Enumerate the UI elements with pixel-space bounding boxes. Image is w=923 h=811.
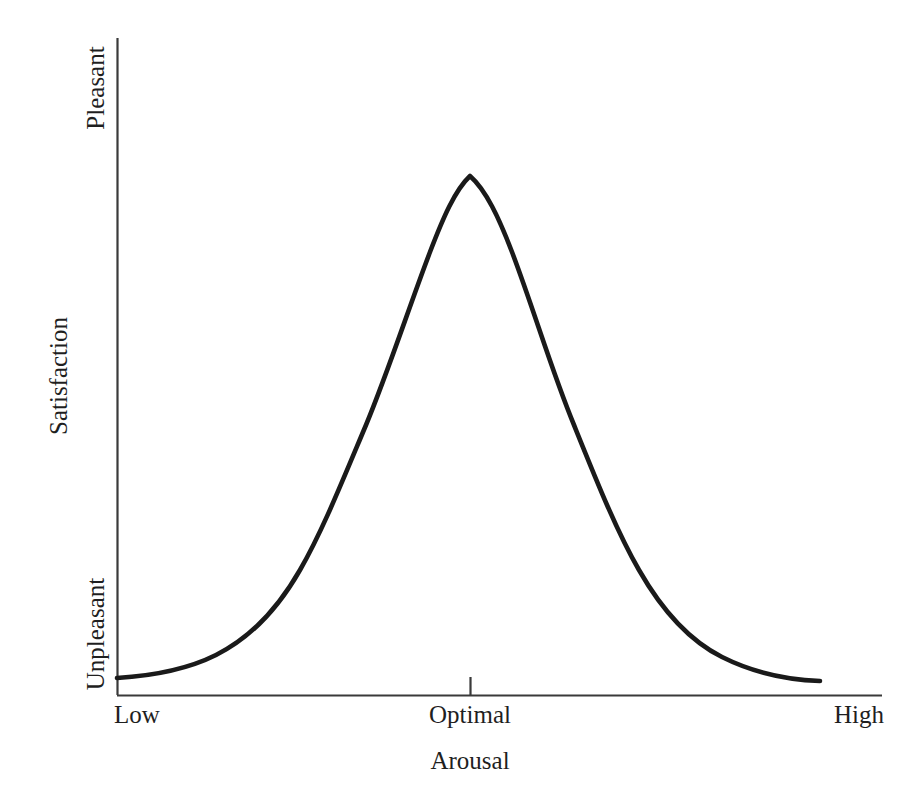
- chart-plot-area: [0, 0, 923, 811]
- x-axis-label-optimal: Optimal: [429, 702, 511, 727]
- chart-figure: Pleasant Unpleasant Satisfaction Low Opt…: [0, 0, 923, 811]
- x-axis-label-low: Low: [114, 702, 160, 727]
- satisfaction-curve: [117, 176, 820, 681]
- x-axis-label-high: High: [834, 702, 884, 727]
- x-axis-title: Arousal: [430, 748, 509, 773]
